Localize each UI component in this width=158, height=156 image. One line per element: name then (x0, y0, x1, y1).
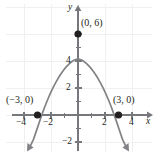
x-tick-label-4: 4 (129, 118, 134, 128)
x-tick-label--4: −4 (16, 118, 26, 128)
x-tick-label-2: 2 (102, 118, 107, 128)
parabola-graph-figure: −4 −2 2 4 4 2 −2 x y (0, 6) (−3, 0) (3, … (0, 0, 158, 156)
x-tick-label--2: −2 (43, 118, 53, 128)
y-tick-label-4: 4 (66, 56, 71, 66)
grid-lines (6, 4, 152, 152)
x-axis-name: x (146, 117, 150, 127)
y-tick-label--2: −2 (62, 137, 72, 147)
y-tick-label-2: 2 (66, 83, 71, 93)
right-intercept-label: (3, 0) (113, 95, 135, 105)
vertex-label: (0, 6) (81, 18, 103, 28)
point-right-intercept (115, 111, 122, 118)
point-vertex (74, 30, 81, 37)
plot-canvas (0, 0, 158, 156)
point-left-intercept (34, 111, 41, 118)
y-axis-arrow (75, 5, 82, 11)
left-intercept-label: (−3, 0) (6, 95, 33, 105)
y-axis-name: y (68, 3, 72, 13)
